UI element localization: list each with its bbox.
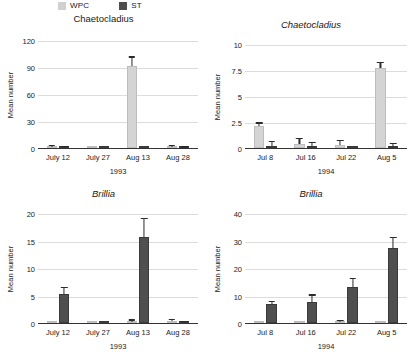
bar-group bbox=[367, 45, 408, 148]
bar-group bbox=[38, 214, 78, 323]
bar-slot bbox=[266, 45, 277, 148]
chart-panel-brillia-1993: Brillia Mean number05101520July 12July 2… bbox=[0, 187, 207, 363]
plot-canvas bbox=[245, 45, 407, 149]
bar-st bbox=[307, 302, 318, 323]
x-axis-tick-label: July 12 bbox=[46, 328, 70, 337]
error-bar bbox=[299, 139, 300, 144]
x-axis-tick-label: Jul 8 bbox=[257, 328, 273, 337]
bar-slot bbox=[99, 41, 109, 148]
y-axis-tick-label: 15 bbox=[27, 237, 35, 246]
bar-slot bbox=[167, 214, 177, 323]
y-axis-tick-label: 0 bbox=[238, 145, 242, 154]
legend-label-wpc: WPC bbox=[70, 1, 89, 10]
bar-slot bbox=[167, 41, 177, 148]
bar-slot bbox=[266, 214, 277, 323]
bar-wpc bbox=[87, 321, 97, 323]
x-axis-tick-label: Aug 13 bbox=[126, 328, 150, 337]
bar-wpc bbox=[375, 321, 386, 323]
x-axis-tick-label: July 12 bbox=[46, 153, 70, 162]
x-axis-tick-label: Aug 13 bbox=[126, 153, 150, 162]
error-bar-cap bbox=[61, 146, 67, 147]
bar-st bbox=[139, 237, 149, 323]
error-bar-cap bbox=[309, 142, 316, 143]
chart-panel-brillia-1994: Brillia Mean number010203040Jul 8Jul 16J… bbox=[207, 187, 415, 363]
bar-st bbox=[99, 146, 109, 148]
bar-group bbox=[286, 214, 327, 323]
chart-panel-chaetocladius-1993: Chaetocladius Mean number0306090120July … bbox=[0, 12, 207, 187]
error-bar bbox=[392, 238, 393, 248]
x-axis-tick-label: July 27 bbox=[86, 153, 110, 162]
bar-slot bbox=[47, 214, 57, 323]
bar-slot bbox=[87, 41, 97, 148]
bar-slot bbox=[254, 214, 265, 323]
bar-slot bbox=[127, 214, 137, 323]
y-axis-tick-label: 90 bbox=[27, 64, 35, 73]
bar-slot bbox=[294, 45, 305, 148]
error-bar-cap bbox=[390, 143, 397, 144]
y-axis-tick-label: 20 bbox=[27, 210, 35, 219]
legend-swatch-wpc-icon bbox=[58, 2, 66, 10]
error-bar-cap bbox=[390, 237, 397, 238]
legend-entry-st: ST bbox=[119, 1, 142, 10]
bar-st bbox=[139, 146, 149, 148]
y-axis-tick-label: 0 bbox=[31, 145, 35, 154]
y-axis-ticks: 0306090120 bbox=[9, 41, 35, 149]
bar-wpc bbox=[375, 68, 386, 148]
bar-slot bbox=[335, 45, 346, 148]
bar-wpc bbox=[254, 321, 265, 323]
x-axis-tick-label: Jul 16 bbox=[296, 328, 316, 337]
bar-st bbox=[99, 321, 109, 323]
x-axis-tick-label: Jul 22 bbox=[336, 328, 356, 337]
bar-slot bbox=[254, 45, 265, 148]
x-axis-tick-label: Jul 8 bbox=[257, 153, 273, 162]
bar-slot bbox=[59, 214, 69, 323]
x-axis-label: 1994 bbox=[245, 167, 407, 176]
bar-wpc bbox=[335, 145, 346, 148]
legend-entry-wpc: WPC bbox=[58, 1, 89, 10]
error-bar bbox=[144, 219, 145, 237]
y-axis-tick-label: 2.5 bbox=[232, 119, 242, 128]
bar-wpc bbox=[254, 126, 265, 148]
bar-slot bbox=[139, 214, 149, 323]
bar-slot bbox=[47, 41, 57, 148]
bar-st bbox=[59, 294, 69, 323]
x-axis-tick-label: Jul 22 bbox=[336, 153, 356, 162]
bar-slot bbox=[87, 214, 97, 323]
bar-st bbox=[347, 146, 358, 148]
error-bar bbox=[380, 63, 381, 68]
error-bar bbox=[271, 302, 272, 304]
chart-panel-chaetocladius-1994: Chaetocladius Mean number02.557.510Jul 8… bbox=[207, 18, 415, 187]
bar-wpc bbox=[47, 321, 57, 323]
error-bar-cap bbox=[337, 320, 344, 321]
error-bar bbox=[131, 58, 132, 67]
bar-group bbox=[245, 45, 286, 148]
y-axis-tick-label: 5 bbox=[238, 93, 242, 102]
bar-slot bbox=[388, 45, 399, 148]
x-axis-tick-label: July 27 bbox=[86, 328, 110, 337]
y-axis-tick-label: 40 bbox=[234, 210, 242, 219]
y-axis-tick-label: 10 bbox=[27, 265, 35, 274]
bar-wpc bbox=[294, 144, 305, 148]
error-bar-cap bbox=[181, 146, 187, 147]
error-bar-cap bbox=[256, 122, 263, 123]
panel-title: Brillia bbox=[207, 187, 415, 200]
bar-group bbox=[118, 41, 158, 148]
x-axis-tick-label: Aug 28 bbox=[166, 328, 190, 337]
bar-group bbox=[78, 41, 118, 148]
bar-slot bbox=[347, 214, 358, 323]
bar-slot bbox=[335, 214, 346, 323]
error-bar-cap bbox=[169, 319, 175, 320]
bar-group bbox=[38, 41, 78, 148]
bar-st bbox=[388, 248, 399, 323]
error-bar bbox=[131, 321, 132, 322]
bar-group bbox=[326, 214, 367, 323]
y-axis-tick-label: 10 bbox=[234, 41, 242, 50]
error-bar-cap bbox=[337, 140, 344, 141]
bar-slot bbox=[307, 45, 318, 148]
bar-group bbox=[245, 214, 286, 323]
y-axis-tick-label: 0 bbox=[238, 320, 242, 329]
bar-group bbox=[118, 214, 158, 323]
bar-wpc bbox=[87, 146, 97, 148]
error-bar-cap bbox=[129, 56, 135, 57]
x-axis-tick-label: Aug 28 bbox=[166, 153, 190, 162]
